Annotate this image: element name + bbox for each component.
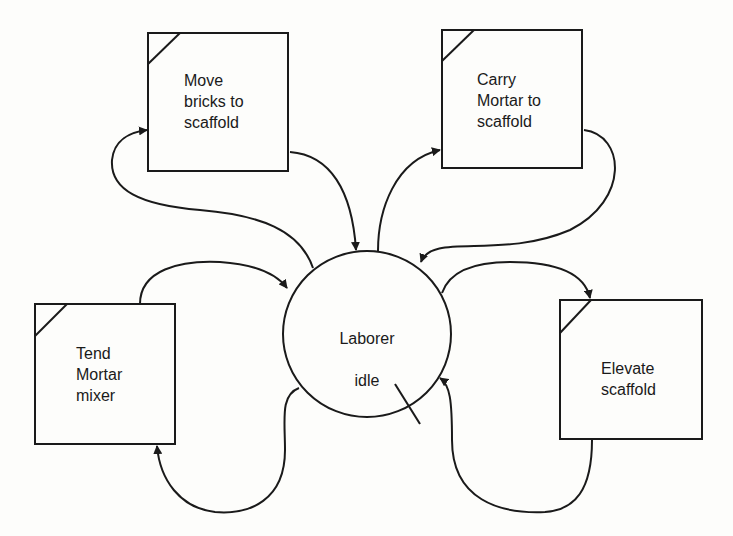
laborer-idle-line-1: Laborer — [317, 328, 417, 349]
edge-idle-to-move-bricks — [112, 130, 313, 268]
edge-tend-mixer-to-idle — [140, 262, 287, 304]
edge-carry-mortar-to-idle — [421, 130, 615, 262]
edge-move-bricks-to-idle — [290, 152, 356, 250]
tend-mortar-mixer-label: Tend Mortar mixer — [76, 343, 122, 406]
move-bricks-label: Move bricks to scaffold — [184, 70, 244, 133]
laborer-idle-label: Laborer idle — [317, 307, 417, 412]
edge-idle-to-tend-mixer — [157, 388, 299, 512]
edge-idle-to-elevate — [442, 262, 590, 298]
laborer-idle-line-2: idle — [317, 370, 417, 391]
elevate-scaffold-label: Elevate scaffold — [601, 358, 656, 400]
edge-idle-to-carry-mortar — [378, 150, 440, 251]
diagram-graphics — [0, 0, 733, 536]
carry-mortar-label: Carry Mortar to scaffold — [477, 69, 541, 132]
edge-elevate-to-idle — [440, 378, 592, 512]
diagram-canvas: Move bricks to scaffold Carry Mortar to … — [0, 0, 733, 536]
